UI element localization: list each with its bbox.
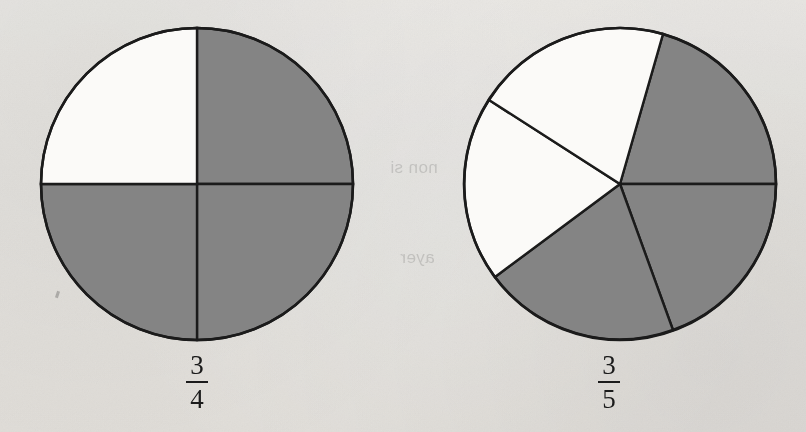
fraction-denominator: 4: [171, 386, 223, 413]
fraction-denominator: 5: [583, 386, 635, 413]
sector-lower-left-shaded: [41, 184, 197, 340]
fraction-bar: [186, 381, 208, 383]
figure-three-fifths: [400, 0, 806, 360]
fraction-numerator: 3: [583, 352, 635, 379]
fraction-numerator: 3: [171, 352, 223, 379]
sector-upper-left-unshaded: [41, 28, 197, 184]
circle-diagram-three-fifths: [400, 0, 806, 360]
circle-diagram-three-quarters: [0, 0, 400, 360]
scanned-page: passed non si in the so flo ayer 3 4: [0, 0, 806, 432]
sector-lower-right-shaded: [197, 184, 353, 340]
fraction-bar: [598, 381, 620, 383]
fraction-label-three-fifths: 3 5: [583, 352, 635, 413]
figure-three-quarters: [0, 0, 400, 360]
fraction-label-three-quarters: 3 4: [171, 352, 223, 413]
sector-upper-right-shaded: [197, 28, 353, 184]
